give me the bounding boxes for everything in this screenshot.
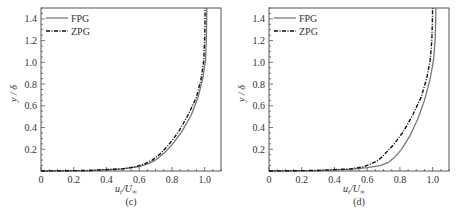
y-tick-label: 1.4 [25,13,38,24]
y-tick-label: 0.8 [253,79,266,90]
y-tick-label: 0.4 [253,122,266,133]
x-tick-label: 0.8 [166,174,179,185]
legend-label-fpg: FPG [71,13,89,24]
x-tick-label: 1.0 [426,174,439,185]
legend-label-fpg: FPG [299,13,317,24]
x-tick-label: 0.4 [328,174,341,185]
chart-panel-d: 00.20.40.60.81.00.20.40.60.81.01.21.4y /… [228,0,456,216]
x-tick-label: 0.8 [394,174,407,185]
x-tick-label: 0 [267,174,272,185]
plot-c: 00.20.40.60.81.00.20.40.60.81.01.21.4y /… [0,0,228,216]
y-tick-label: 0.6 [253,100,266,111]
x-tick-label: 0.6 [133,174,146,185]
x-tick-label: 0.2 [67,174,80,185]
y-tick-label: 0.4 [25,122,38,133]
x-tick-label: 0 [39,174,44,185]
chart-panel-c: 00.20.40.60.81.00.20.40.60.81.01.21.4y /… [0,0,228,216]
y-tick-label: 0.2 [253,144,266,155]
plot-frame [41,8,221,171]
y-axis-label: y / δ [236,85,247,103]
y-tick-label: 1.0 [25,57,38,68]
x-tick-label: 1.0 [198,174,211,185]
plot-d: 00.20.40.60.81.00.20.40.60.81.01.21.4y /… [228,0,457,216]
x-tick-label: 0.6 [361,174,374,185]
y-axis-label: y / δ [8,85,19,103]
y-tick-label: 1.0 [253,57,266,68]
y-tick-label: 1.2 [253,35,266,46]
legend-label-zpg: ZPG [71,26,90,37]
y-tick-label: 0.6 [25,100,38,111]
y-tick-label: 0.2 [25,144,38,155]
x-tick-label: 0.2 [295,174,308,185]
y-tick-label: 0.8 [25,79,38,90]
legend-label-zpg: ZPG [299,26,318,37]
y-tick-label: 1.4 [253,13,266,24]
panel-caption-d: (d) [339,196,379,207]
y-tick-label: 1.2 [25,35,38,46]
plot-frame [269,8,449,171]
x-tick-label: 0.4 [100,174,113,185]
panel-caption-c: (c) [111,196,151,207]
